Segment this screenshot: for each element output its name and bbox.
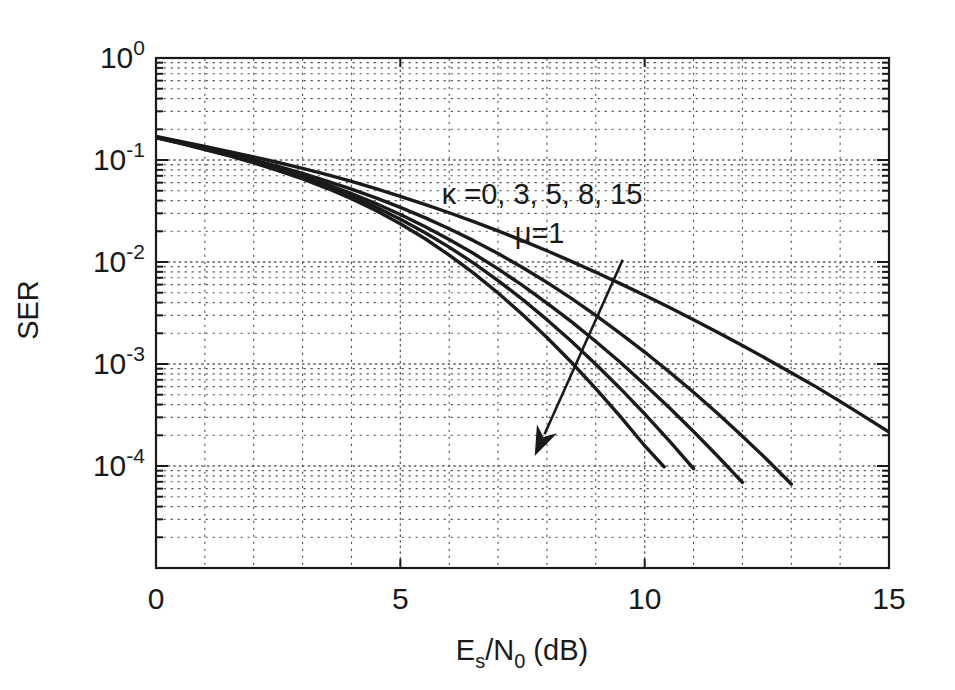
x-tick-label: 0 <box>148 582 165 615</box>
x-tick-label: 5 <box>392 582 409 615</box>
kappa-values: κ =0, 3, 5, 8, 15 <box>442 178 643 210</box>
svg-text:SER: SER <box>12 280 44 340</box>
mu-value: μ=1 <box>515 217 565 249</box>
y-axis-label: SER <box>12 280 44 340</box>
x-tick-label: 10 <box>628 582 661 615</box>
x-tick-label: 15 <box>872 582 905 615</box>
ser-vs-esn0-chart: 051015 10010-110-210-310-4 κ =0, 3, 5, 8… <box>0 0 955 690</box>
figure-container: 051015 10010-110-210-310-4 κ =0, 3, 5, 8… <box>0 0 955 690</box>
